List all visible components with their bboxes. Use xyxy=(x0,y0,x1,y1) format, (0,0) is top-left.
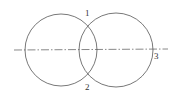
center-line xyxy=(14,49,168,50)
label-point-3: 3 xyxy=(154,51,159,61)
intersecting-circles-diagram: 1 2 3 xyxy=(0,0,175,94)
label-point-2: 2 xyxy=(85,82,90,92)
right-circle xyxy=(79,13,153,87)
label-point-1: 1 xyxy=(85,8,90,18)
